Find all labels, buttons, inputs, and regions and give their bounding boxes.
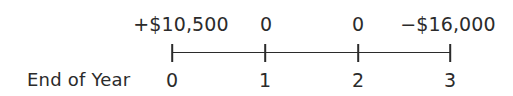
cash-flow-label-year-1: 0 xyxy=(260,13,272,36)
year-label-1: 1 xyxy=(259,69,271,91)
end-of-year-axis-label: End of Year xyxy=(27,69,130,91)
timeline-axis-line xyxy=(172,52,450,53)
year-label-3: 3 xyxy=(444,69,456,91)
year-label-2: 2 xyxy=(352,69,364,91)
axis-tick-year-3 xyxy=(449,44,451,62)
year-label-0: 0 xyxy=(166,69,178,91)
cash-flow-label-year-3: −$16,000 xyxy=(400,13,495,36)
cash-flow-label-year-0: +$10,500 xyxy=(133,13,228,36)
axis-tick-year-0 xyxy=(171,44,173,62)
cash-flow-timeline-figure: +$10,500 0 0 −$16,000 End of Year 0 1 2 … xyxy=(0,0,513,96)
axis-tick-year-1 xyxy=(264,44,266,62)
axis-tick-year-2 xyxy=(357,44,359,62)
cash-flow-label-year-2: 0 xyxy=(352,13,364,36)
